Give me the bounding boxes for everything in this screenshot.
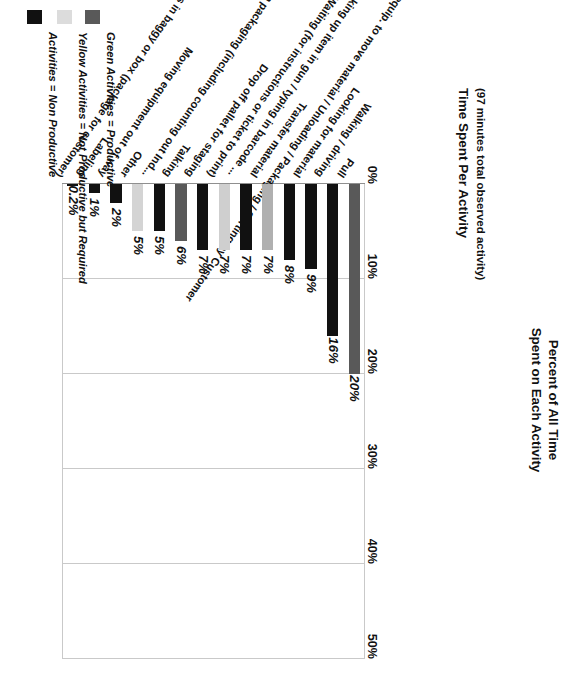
legend-item[interactable]: Activities = Non Productive bbox=[18, 8, 44, 338]
legend-item-label: Activities = Non Productive bbox=[44, 32, 62, 332]
bar-rect bbox=[327, 184, 338, 336]
chart-legend: Green Activities = ProductiveYellow Acti… bbox=[6, 8, 102, 338]
bar-value-label: 9% bbox=[302, 258, 319, 310]
legend-item-label: Yellow Activities = Not Productive but R… bbox=[74, 32, 92, 332]
bar-value-label: 8% bbox=[281, 249, 298, 301]
bar[interactable]: 7% bbox=[262, 184, 273, 659]
bar[interactable]: 5% bbox=[154, 184, 165, 659]
bar[interactable]: 8% bbox=[284, 184, 295, 659]
y-axis-tick-label: 30% bbox=[364, 423, 380, 469]
non-productive-swatch bbox=[27, 10, 42, 24]
gridline bbox=[62, 658, 365, 659]
bar-value-label: 7% bbox=[216, 239, 233, 291]
y-axis-tick-label: 20% bbox=[364, 328, 380, 374]
bar-value-label: 6% bbox=[173, 230, 190, 282]
bar[interactable]: 6% bbox=[175, 184, 186, 659]
legend-item-label: Green Activities = Productive bbox=[102, 32, 120, 332]
y-axis-tick-label: 40% bbox=[364, 518, 380, 564]
chart-title-block: Time Spent Per Activity (97 minutes tota… bbox=[436, 88, 496, 288]
bar-rect bbox=[349, 184, 360, 374]
bar[interactable]: 9% bbox=[305, 184, 316, 659]
y-axis-tick-label: 10% bbox=[364, 233, 380, 279]
not-productive-but-required-swatch bbox=[57, 10, 72, 24]
bar[interactable]: 7% bbox=[240, 184, 251, 659]
bar[interactable]: 20% bbox=[349, 184, 360, 659]
bar[interactable]: 5% bbox=[132, 184, 143, 659]
y-axis-tick-label: 50% bbox=[364, 613, 380, 659]
bar-value-label: 7% bbox=[237, 239, 254, 291]
bar[interactable]: 16% bbox=[327, 184, 338, 659]
chart-subtitle: (97 minutes total observed activity) bbox=[475, 88, 487, 328]
gridline bbox=[62, 563, 365, 564]
value-axis-title-line-1: Percent of All Time bbox=[546, 340, 561, 461]
bar-value-label: 5% bbox=[129, 220, 146, 272]
bar-value-label: 16% bbox=[324, 325, 341, 377]
bar[interactable]: 7% bbox=[197, 184, 208, 659]
bar[interactable]: 7% bbox=[219, 184, 230, 659]
bar-value-label: 7% bbox=[259, 239, 276, 291]
gridline bbox=[62, 373, 365, 374]
gridline bbox=[62, 468, 365, 469]
value-axis-title: Percent of All Time Spent on Each Activi… bbox=[528, 250, 562, 550]
page-title: Time Spent Per Activity bbox=[456, 88, 471, 328]
bar-value-label: 20% bbox=[346, 363, 363, 415]
bar-value-label: 5% bbox=[151, 220, 168, 272]
productive-swatch bbox=[85, 10, 100, 24]
bar-value-label: 7% bbox=[194, 239, 211, 291]
value-axis-title-line-2: Spent on Each Activity bbox=[529, 328, 544, 473]
